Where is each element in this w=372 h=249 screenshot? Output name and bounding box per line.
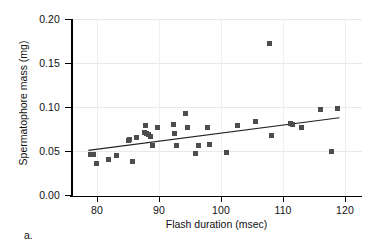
- x-tick-label-120: 120: [325, 205, 365, 216]
- data-point: [329, 149, 334, 154]
- data-point: [106, 157, 111, 162]
- data-point: [148, 134, 153, 139]
- data-point: [253, 119, 258, 124]
- y-tick-0.10: [65, 107, 71, 108]
- data-point: [174, 143, 179, 148]
- data-point: [143, 123, 148, 128]
- x-axis-line: [70, 196, 362, 198]
- data-point: [207, 142, 212, 147]
- data-point: [224, 150, 229, 155]
- data-point: [155, 125, 160, 130]
- vgridline-90: [159, 19, 160, 196]
- x-tick-120: [345, 196, 346, 202]
- x-axis-label: Flash duration (msec): [71, 219, 362, 230]
- data-point: [269, 133, 274, 138]
- y-axis-line: [71, 19, 73, 197]
- data-point: [172, 131, 177, 136]
- data-point: [318, 107, 323, 112]
- x-tick-100: [221, 196, 222, 202]
- data-point: [193, 151, 198, 156]
- vgridline-100: [221, 19, 222, 196]
- data-point: [185, 125, 190, 130]
- x-tick-90: [159, 196, 160, 202]
- data-point: [114, 153, 119, 158]
- data-point: [171, 122, 176, 127]
- y-tick-0.05: [65, 151, 71, 152]
- x-tick-label-90: 90: [139, 205, 179, 216]
- scatter-plot-figure: 0.20 0.15 0.10 0.05 0.00 80 90 100 110 1…: [0, 0, 372, 249]
- vgridline-120: [345, 19, 346, 196]
- y-tick-0.15: [65, 63, 71, 64]
- data-point: [127, 137, 132, 142]
- vgridline-80: [97, 19, 98, 196]
- gridline-0.15: [71, 63, 362, 64]
- data-point: [196, 143, 201, 148]
- vgridline-110: [283, 19, 284, 196]
- x-tick-80: [97, 196, 98, 202]
- x-tick-label-100: 100: [201, 205, 241, 216]
- data-point: [150, 143, 155, 148]
- data-point: [91, 152, 96, 157]
- data-point: [183, 111, 188, 116]
- x-tick-label-110: 110: [263, 205, 303, 216]
- data-point: [335, 106, 340, 111]
- x-tick-label-80: 80: [77, 205, 117, 216]
- data-point: [134, 135, 139, 140]
- data-point: [235, 123, 240, 128]
- data-point: [290, 122, 295, 127]
- data-point: [94, 161, 99, 166]
- data-point: [130, 159, 135, 164]
- panel-letter: a.: [24, 230, 33, 241]
- x-tick-110: [283, 196, 284, 202]
- y-axis-label: Spermatophore mass (mg): [17, 8, 29, 198]
- data-point: [267, 41, 272, 46]
- y-tick-0.00: [65, 195, 71, 196]
- data-point: [205, 125, 210, 130]
- data-point: [299, 125, 304, 130]
- y-axis-label-wrapper: Spermatophore mass (mg): [17, 8, 33, 198]
- y-tick-0.20: [65, 19, 71, 20]
- gridline-0.20: [71, 19, 362, 20]
